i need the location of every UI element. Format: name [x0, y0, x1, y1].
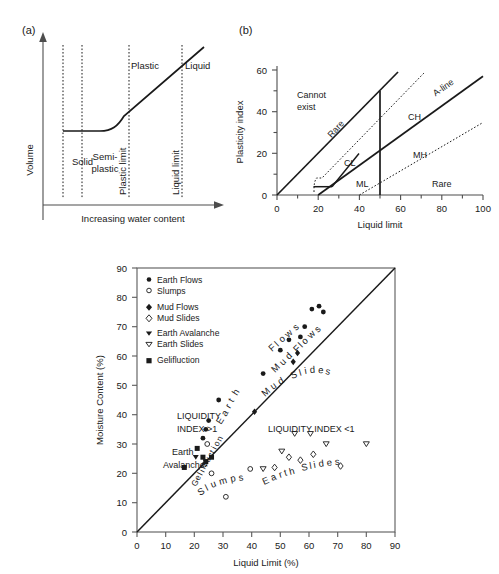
data-point-earth-flows-4: [261, 371, 266, 376]
panel-b-ytick-40: 40: [256, 106, 267, 117]
data-point-earth-flows-2: [203, 427, 208, 432]
data-point-earth-flows-6: [287, 337, 292, 342]
legend-label-gelifluction: Gelifluction: [157, 355, 200, 365]
main-xtick-80: 80: [361, 540, 372, 551]
data-point-earth-flows-0: [216, 398, 221, 403]
panel-b-label-cannot-2: exist: [297, 102, 316, 112]
main-chart-ylabel: Moisture Content (%): [94, 355, 105, 445]
panel-b-label-cl: CL: [344, 158, 356, 168]
panel-a-liquid-limit-label: Liquid limit: [170, 150, 181, 195]
legend-label-slumps: Slumps: [157, 286, 186, 296]
panel-b-ytick-0: 0: [262, 190, 267, 201]
panel-b-label-mh: MH: [413, 150, 427, 160]
data-point-earth-flows-5: [278, 348, 283, 353]
panel-b-ylabel: Plasticity index: [234, 100, 245, 163]
panel-a-xlabel: Increasing water content: [81, 213, 185, 224]
legend-marker-gelifluction: [146, 358, 151, 363]
main-xtick-30: 30: [218, 540, 229, 551]
main-xtick-0: 0: [134, 540, 139, 551]
legend-label-mud-flows: Mud Flows: [157, 302, 199, 312]
main-xtick-40: 40: [246, 540, 257, 551]
main-xtick-20: 20: [189, 540, 200, 551]
legend-marker-earth-flows: [147, 277, 152, 282]
panel-b-label-rare-lower: Rare: [432, 179, 452, 189]
panel-b-xtick-80: 80: [437, 203, 448, 214]
main-xtick-60: 60: [304, 540, 315, 551]
panel-b-xtick-100: 100: [475, 203, 491, 214]
data-point-earth-flows-10: [321, 310, 326, 315]
panel-b-xtick-40: 40: [354, 203, 365, 214]
panel-b-ytick-60: 60: [256, 65, 267, 76]
main-xtick-70: 70: [332, 540, 343, 551]
svg-text:e: e: [318, 364, 324, 375]
data-point-earth-flows-11: [302, 324, 307, 329]
data-point-earth-flows-7: [298, 335, 303, 340]
main-ytick-70: 70: [116, 321, 127, 332]
data-point-gelifluction-1: [195, 446, 200, 451]
main-ytick-80: 80: [116, 292, 127, 303]
data-point-earth-flows-8: [309, 307, 314, 312]
main-chart-xlabel: Liquid Limit (%): [233, 557, 298, 568]
main-ytick-50: 50: [116, 380, 127, 391]
panel-b-tag: (b): [239, 24, 252, 36]
panel-b-ytick-20: 20: [256, 148, 267, 159]
main-ytick-90: 90: [116, 263, 127, 274]
canvas-background: [0, 0, 499, 574]
panel-b-xlabel: Liquid limit: [358, 219, 403, 230]
main-ytick-10: 10: [116, 497, 127, 508]
panel-a-label-semi: Semi-: [93, 151, 118, 162]
legend-label-earth-slides: Earth Slides: [157, 339, 203, 349]
main-ytick-40: 40: [116, 409, 127, 420]
panel-b-label-ml: ML: [356, 179, 369, 189]
main-ytick-30: 30: [116, 439, 127, 450]
panel-a-tag: (a): [22, 24, 35, 36]
figure-svg: (a) Volume Increasing water content Plas…: [0, 0, 499, 574]
annotation-liquidity-index-lt1: LIQUIDITY INDEX <1: [268, 424, 355, 434]
main-xtick-50: 50: [275, 540, 286, 551]
main-ytick-0: 0: [122, 527, 127, 538]
panel-a-ylabel: Volume: [24, 144, 35, 176]
data-point-gelifluction-4: [209, 455, 214, 460]
main-xtick-10: 10: [160, 540, 171, 551]
legend-label-earth-flows: Earth Flows: [157, 275, 202, 285]
main-ytick-20: 20: [116, 468, 127, 479]
data-point-gelifluction-0: [182, 465, 187, 470]
main-xtick-90: 90: [390, 540, 401, 551]
data-point-gelifluction-3: [203, 459, 208, 464]
panel-a-label-plastic: Plastic: [131, 60, 159, 71]
data-point-earth-flows-3: [201, 436, 206, 441]
panel-b-label-cannot-1: Cannot: [297, 90, 327, 100]
panel-b-xtick-60: 60: [395, 203, 406, 214]
data-point-earth-flows-1: [206, 418, 211, 423]
panel-a-label-solid: Solid: [72, 156, 93, 167]
figure-root: (a) Volume Increasing water content Plas…: [0, 0, 499, 574]
svg-text:d: d: [309, 364, 315, 375]
annotation-earth: Earth: [172, 447, 194, 457]
legend-label-earth-avalanche: Earth Avalanche: [157, 328, 220, 338]
panel-a-label-liquid: Liquid: [185, 60, 210, 71]
panel-b-label-ch: CH: [408, 112, 421, 122]
main-ytick-60: 60: [116, 351, 127, 362]
panel-a-plastic-limit-label: Plastic limit: [117, 147, 128, 195]
panel-b-xtick-20: 20: [313, 203, 324, 214]
legend-label-mud-slides: Mud Slides: [157, 313, 200, 323]
data-point-gelifluction-2: [200, 455, 205, 460]
panel-a-label-plastic2: plastic: [92, 163, 119, 174]
panel-b-xtick-0: 0: [274, 203, 279, 214]
annotation-liquidity-index-gt1: INDEX >1: [177, 424, 217, 434]
data-point-earth-flows-9: [317, 304, 322, 309]
